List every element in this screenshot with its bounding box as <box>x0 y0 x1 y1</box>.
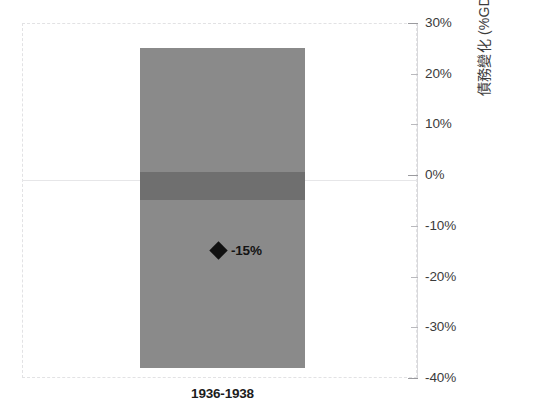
y-tick-label: 10% <box>425 117 452 131</box>
y-tick-mark <box>411 226 418 227</box>
y-tick-mark <box>408 378 418 379</box>
bar-inner-band <box>140 172 305 201</box>
y-tick-label: -20% <box>425 270 456 284</box>
marker-value-label: -15% <box>231 244 262 258</box>
bar-1936-1938[interactable] <box>140 48 305 368</box>
y-tick-label: -10% <box>425 219 456 233</box>
y-tick-mark <box>408 23 418 24</box>
y-tick-mark <box>411 277 418 278</box>
y-tick-mark <box>411 327 418 328</box>
y-axis-spine <box>417 23 418 379</box>
y-tick-label: -40% <box>425 371 456 385</box>
y-tick-mark <box>408 175 418 176</box>
chart-container: 30%20%10%0%-10%-20%-30%-40% 債務變化 (%GDP，年… <box>0 0 535 413</box>
y-tick-label: -30% <box>425 320 456 334</box>
x-axis-category-label: 1936-1938 <box>140 386 305 401</box>
y-tick-mark <box>411 74 418 75</box>
y-tick-label: 20% <box>425 67 452 81</box>
y-tick-label: 30% <box>425 16 452 30</box>
y-axis-title: 債務變化 (%GDP，年度) <box>473 0 493 96</box>
y-tick-label: 0% <box>425 168 444 182</box>
bar-range-body <box>140 48 305 368</box>
data-point-marker[interactable]: -15% <box>212 244 262 258</box>
diamond-marker-icon <box>209 242 227 260</box>
y-tick-mark <box>411 124 418 125</box>
